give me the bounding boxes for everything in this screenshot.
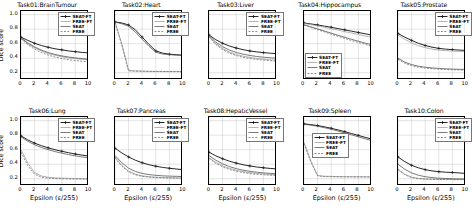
x-tick-label: 0 <box>301 81 304 86</box>
x-tick-label: 4 <box>234 81 237 86</box>
chart-legend: SEAT-FTFREE-FTSEATFREE <box>152 118 189 143</box>
series-line-seat <box>115 155 182 176</box>
x-tick-label: 0 <box>18 187 21 192</box>
chart-legend: SEAT-FTFREE-FTSEATFREE <box>435 118 472 143</box>
legend-item-free: FREE <box>437 29 469 34</box>
x-tick-label: 10 <box>85 187 92 192</box>
x-tick-label: 4 <box>140 81 143 86</box>
x-tick-label: 0 <box>207 187 210 192</box>
panel-title: Task07:Pancreas <box>94 107 188 115</box>
y-tick-label: 0.2 <box>10 175 18 180</box>
y-tick-label: 0.6 <box>10 40 18 45</box>
legend-item-free: FREE <box>60 29 92 34</box>
x-tick-label: 8 <box>73 81 76 86</box>
x-tick-label: 10 <box>179 187 186 192</box>
chart-legend: SEAT-FTFREE-FTSEATFREE <box>246 12 283 37</box>
x-tick-label: 4 <box>328 187 331 192</box>
legend-item-free: FREE <box>437 135 469 140</box>
x-tick-label: 8 <box>450 187 453 192</box>
chart-panel-8: Task08:HepaticVessel0246810Epsilon (ε/25… <box>188 106 282 212</box>
x-tick-label: 2 <box>315 187 318 192</box>
legend-swatch-icon <box>154 135 165 140</box>
series-line-seat <box>398 164 465 179</box>
legend-label: FREE <box>167 29 179 34</box>
x-tick-label: 6 <box>248 187 251 192</box>
y-tick-label: 0.4 <box>10 161 18 166</box>
x-tick-label: 8 <box>261 187 264 192</box>
plot-area: 0246810SEAT-FTFREE-FTSEATFREE <box>397 10 465 79</box>
chart-panel-1: Task01:BrainTumour0.20.40.60.81.00246810… <box>0 0 94 106</box>
x-tick-label: 10 <box>273 187 280 192</box>
series-line-free-ft <box>209 36 276 60</box>
y-tick-label: 0.2 <box>10 69 18 74</box>
x-axis-label: Epsilon (ε/255) <box>124 195 172 202</box>
y-tick-label: 1.0 <box>10 11 18 16</box>
legend-item-free: FREE <box>60 135 92 140</box>
x-tick-label: 10 <box>85 81 92 86</box>
plot-area: 0246810Epsilon (ε/255)SEAT-FTFREE-FTSEAT… <box>114 116 182 185</box>
x-tick-label: 2 <box>126 187 129 192</box>
legend-label: FREE <box>73 135 85 140</box>
panel-title: Task04:Hippocampus <box>283 1 377 9</box>
legend-label: FREE <box>449 135 461 140</box>
chart-legend: SEAT-FTFREE-FTSEATFREE <box>305 53 342 78</box>
x-axis-label: Epsilon (ε/255) <box>219 195 267 202</box>
x-axis-label: Epsilon (ε/255) <box>407 195 455 202</box>
x-tick-label: 6 <box>153 187 156 192</box>
x-tick-label: 8 <box>167 187 170 192</box>
legend-label: FREE <box>449 29 461 34</box>
x-tick-label: 6 <box>436 81 439 86</box>
x-tick-label: 10 <box>367 187 374 192</box>
x-tick-label: 8 <box>261 81 264 86</box>
x-tick-label: 4 <box>422 81 425 86</box>
plot-area: 0246810Epsilon (ε/255)SEAT-FTFREE-FTSEAT… <box>303 116 371 185</box>
y-tick-label: 0.8 <box>10 132 18 137</box>
legend-swatch-icon <box>307 71 318 76</box>
chart-panel-10: Task10:Colon0246810Epsilon (ε/255)SEAT-F… <box>377 106 471 212</box>
plot-area: 0246810Epsilon (ε/255)SEAT-FTFREE-FTSEAT… <box>397 116 465 185</box>
y-tick-label: 0.4 <box>10 55 18 60</box>
legend-item-free: FREE <box>154 135 186 140</box>
x-tick-label: 4 <box>234 187 237 192</box>
x-tick-label: 4 <box>328 81 331 86</box>
x-tick-label: 6 <box>342 187 345 192</box>
x-tick-label: 0 <box>113 81 116 86</box>
legend-swatch-icon <box>154 29 165 34</box>
legend-swatch-icon <box>437 135 448 140</box>
legend-item-free: FREE <box>248 29 280 34</box>
panel-title: Task05:Prostate <box>377 1 471 9</box>
legend-label: FREE <box>73 29 85 34</box>
x-axis-label: Epsilon (ε/255) <box>30 195 78 202</box>
x-tick-label: 2 <box>220 81 223 86</box>
x-tick-label: 8 <box>167 81 170 86</box>
x-tick-label: 8 <box>450 81 453 86</box>
x-tick-label: 2 <box>409 81 412 86</box>
chart-panel-3: Task03:Liver0246810SEAT-FTFREE-FTSEATFRE… <box>188 0 282 106</box>
x-tick-label: 2 <box>32 81 35 86</box>
x-tick-label: 6 <box>153 81 156 86</box>
legend-swatch-icon <box>248 135 259 140</box>
x-tick-label: 6 <box>342 81 345 86</box>
legend-label: FREE <box>261 135 273 140</box>
x-tick-label: 0 <box>395 187 398 192</box>
legend-label: FREE <box>167 135 179 140</box>
x-tick-label: 2 <box>32 187 35 192</box>
panel-title: Task06:Lung <box>0 107 94 115</box>
series-line-seat-ft <box>115 148 182 169</box>
plot-area: 0.20.40.60.81.00246810Dice scoreSEAT-FTF… <box>20 10 88 79</box>
legend-swatch-icon <box>437 29 448 34</box>
panel-title: Task02:Heart <box>94 1 188 9</box>
x-tick-label: 10 <box>179 81 186 86</box>
x-tick-label: 4 <box>46 187 49 192</box>
x-tick-label: 8 <box>355 187 358 192</box>
chart-legend: SEAT-FTFREE-FTSEATFREE <box>435 12 472 37</box>
series-line-seat-ft <box>209 152 276 169</box>
x-tick-label: 2 <box>126 81 129 86</box>
x-tick-label: 2 <box>315 81 318 86</box>
x-tick-label: 10 <box>461 81 468 86</box>
panel-title: Task08:HepaticVessel <box>188 107 282 115</box>
x-tick-label: 0 <box>18 81 21 86</box>
legend-item-free: FREE <box>154 29 186 34</box>
legend-swatch-icon <box>60 29 71 34</box>
